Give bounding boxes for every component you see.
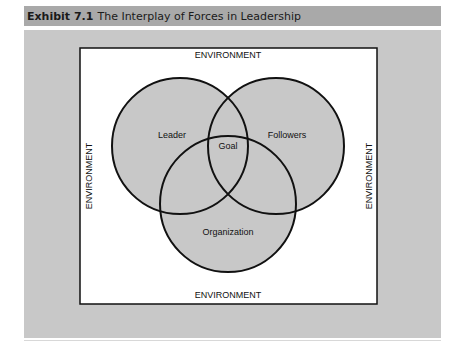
environment-label-right: ENVIRONMENT (364, 142, 374, 209)
goal-label: Goal (218, 141, 237, 151)
environment-label-top: ENVIRONMENT (195, 50, 262, 60)
leader-label: Leader (158, 130, 186, 140)
environment-label-left: ENVIRONMENT (84, 142, 94, 209)
organization-label: Organization (202, 227, 253, 237)
venn-diagram: ENVIRONMENT ENVIRONMENT ENVIRONMENT ENVI… (0, 0, 465, 357)
followers-label: Followers (268, 130, 307, 140)
environment-label-bottom: ENVIRONMENT (195, 290, 262, 300)
